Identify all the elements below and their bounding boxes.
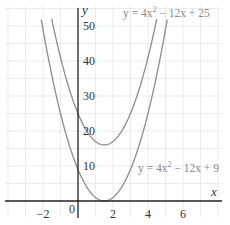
equation-upper: y = 4x2 − 12x + 25 xyxy=(123,5,210,20)
equation-lower: y = 4x2 − 12x + 9 xyxy=(138,160,219,175)
y-tick-label: 20 xyxy=(83,124,95,138)
x-tick-label: −2 xyxy=(37,207,50,221)
x-axis-label: x xyxy=(210,184,217,199)
parabola-chart: x y −202461020304050 y = 4x2 − 12x + 25 … xyxy=(0,0,230,225)
grid xyxy=(5,6,222,217)
y-tick-label: 30 xyxy=(83,89,95,103)
y-tick-label: 10 xyxy=(83,159,95,173)
y-axis-label: y xyxy=(80,2,88,17)
y-tick-label: 50 xyxy=(83,19,95,33)
x-tick-label: 6 xyxy=(180,207,186,221)
curve-upper xyxy=(52,19,157,145)
x-tick-label: 4 xyxy=(145,207,151,221)
x-tick-label: 2 xyxy=(110,207,116,221)
y-tick-label: 40 xyxy=(83,54,95,68)
x-tick-label: 0 xyxy=(69,202,75,216)
